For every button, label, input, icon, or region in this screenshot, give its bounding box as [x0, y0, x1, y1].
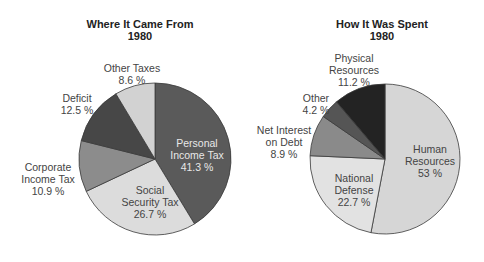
label-corporate-income-tax: CorporateIncome Tax10.9 % — [15, 161, 81, 197]
label-personal-income-tax: PersonalIncome Tax41.3 % — [162, 137, 232, 173]
chart-title-right: How It Was Spent 1980 — [327, 18, 437, 42]
label-human-resources: HumanResources53 % — [398, 143, 462, 179]
label-national-defense: NationalDefense22.7 % — [326, 172, 382, 208]
label-other-taxes: Other Taxes8.6 % — [97, 62, 167, 86]
label-physical-resources: PhysicalResources11.2 % — [322, 52, 386, 88]
label-net-interest-on-debt: Net Intereston Debt8.9 % — [254, 124, 314, 160]
label-social-security-tax: SocialSecurity Tax26.7 % — [110, 184, 190, 220]
chart-title-left: Where It Came From 1980 — [80, 18, 200, 42]
label-other-spending: Other4.2 % — [300, 92, 332, 116]
label-deficit: Deficit12.5 % — [52, 92, 102, 116]
